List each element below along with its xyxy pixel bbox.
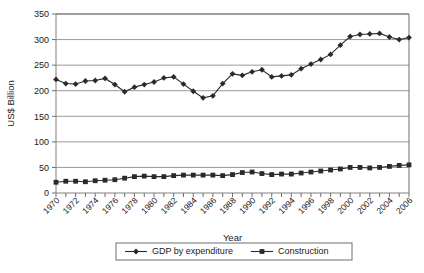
xtick-label: 1976 xyxy=(100,195,121,216)
data-point-gdp xyxy=(63,81,69,87)
data-point-gdp xyxy=(386,34,392,40)
data-point-construction xyxy=(132,174,137,179)
xtick-label: 2000 xyxy=(335,195,356,216)
xtick-label: 1986 xyxy=(198,195,219,216)
legend-label-construction: Construction xyxy=(278,246,329,256)
ytick-label: 200 xyxy=(34,86,49,96)
data-point-construction xyxy=(397,163,402,168)
y-axis-title: US$ Billion xyxy=(5,80,16,126)
data-point-construction xyxy=(260,171,265,176)
legend-label-gdp: GDP by expenditure xyxy=(152,246,233,256)
x-axis-title: Year xyxy=(223,232,242,243)
data-point-gdp xyxy=(73,81,79,87)
data-point-construction xyxy=(250,170,255,175)
xtick-label: 2002 xyxy=(355,195,376,216)
data-point-construction xyxy=(220,173,225,178)
data-point-gdp xyxy=(151,79,157,85)
xtick-label: 1984 xyxy=(178,195,199,216)
xtick-label: 1998 xyxy=(316,195,337,216)
data-point-construction xyxy=(279,172,284,177)
data-point-gdp xyxy=(161,75,167,81)
ytick-label: 50 xyxy=(39,163,49,173)
data-point-construction xyxy=(152,174,157,179)
data-point-construction xyxy=(407,162,412,167)
data-point-construction xyxy=(328,168,333,173)
xtick-label: 1980 xyxy=(139,195,160,216)
data-point-construction xyxy=(309,170,314,175)
data-point-construction xyxy=(377,165,382,170)
data-point-gdp xyxy=(279,73,285,79)
ytick-label: 100 xyxy=(34,137,49,147)
data-point-gdp xyxy=(141,82,147,88)
ytick-label: 0 xyxy=(44,188,49,198)
data-point-gdp xyxy=(132,84,138,90)
data-point-construction xyxy=(63,179,68,184)
data-point-construction xyxy=(348,165,353,170)
data-point-gdp xyxy=(308,61,314,67)
xtick-label: 1974 xyxy=(80,195,101,216)
legend-marker-construction xyxy=(260,249,265,254)
ytick-label: 150 xyxy=(34,112,49,122)
data-point-gdp xyxy=(377,31,383,37)
data-point-construction xyxy=(201,173,206,178)
data-point-construction xyxy=(73,179,78,184)
xtick-label: 1996 xyxy=(296,195,317,216)
data-point-construction xyxy=(181,173,186,178)
xtick-label: 1990 xyxy=(237,195,258,216)
ytick-label: 250 xyxy=(34,60,49,70)
series-line-gdp xyxy=(56,33,409,97)
data-point-construction xyxy=(299,171,304,176)
data-point-construction xyxy=(318,169,323,174)
xtick-label: 1994 xyxy=(276,195,297,216)
xtick-label: 1992 xyxy=(257,195,278,216)
xtick-label: 1982 xyxy=(159,195,180,216)
data-point-construction xyxy=(358,165,363,170)
data-point-construction xyxy=(54,180,59,185)
data-point-gdp xyxy=(367,31,373,37)
data-point-gdp xyxy=(83,78,89,84)
ytick-label: 300 xyxy=(34,35,49,45)
data-point-gdp xyxy=(92,78,98,84)
data-point-construction xyxy=(191,173,196,178)
data-point-gdp xyxy=(239,72,245,78)
ytick-label: 350 xyxy=(34,9,49,19)
data-point-construction xyxy=(240,170,245,175)
chart-container: 0501001502002503003501970197219741976197… xyxy=(0,0,424,273)
data-point-construction xyxy=(171,173,176,178)
data-point-gdp xyxy=(298,66,304,72)
data-point-construction xyxy=(230,172,235,177)
data-point-construction xyxy=(289,172,294,177)
data-point-gdp xyxy=(357,32,363,38)
data-point-construction xyxy=(103,178,108,183)
data-point-gdp xyxy=(396,37,402,43)
data-point-construction xyxy=(112,177,117,182)
data-point-construction xyxy=(142,174,147,179)
data-point-construction xyxy=(210,173,215,178)
data-point-gdp xyxy=(288,72,294,78)
xtick-label: 1972 xyxy=(61,195,82,216)
data-point-construction xyxy=(83,179,88,184)
data-point-gdp xyxy=(318,57,324,63)
data-point-construction xyxy=(367,166,372,171)
xtick-label: 1978 xyxy=(119,195,140,216)
xtick-label: 1988 xyxy=(217,195,238,216)
data-point-construction xyxy=(93,178,98,183)
data-point-gdp xyxy=(102,76,108,82)
line-chart: 0501001502002503003501970197219741976197… xyxy=(0,0,424,273)
data-point-gdp xyxy=(53,77,59,83)
data-point-construction xyxy=(161,174,166,179)
data-point-gdp xyxy=(249,69,255,75)
xtick-label: 2006 xyxy=(394,195,415,216)
data-point-construction xyxy=(122,176,127,181)
data-point-construction xyxy=(338,167,343,172)
data-point-construction xyxy=(387,164,392,169)
data-point-construction xyxy=(269,172,274,177)
xtick-label: 2004 xyxy=(374,195,395,216)
